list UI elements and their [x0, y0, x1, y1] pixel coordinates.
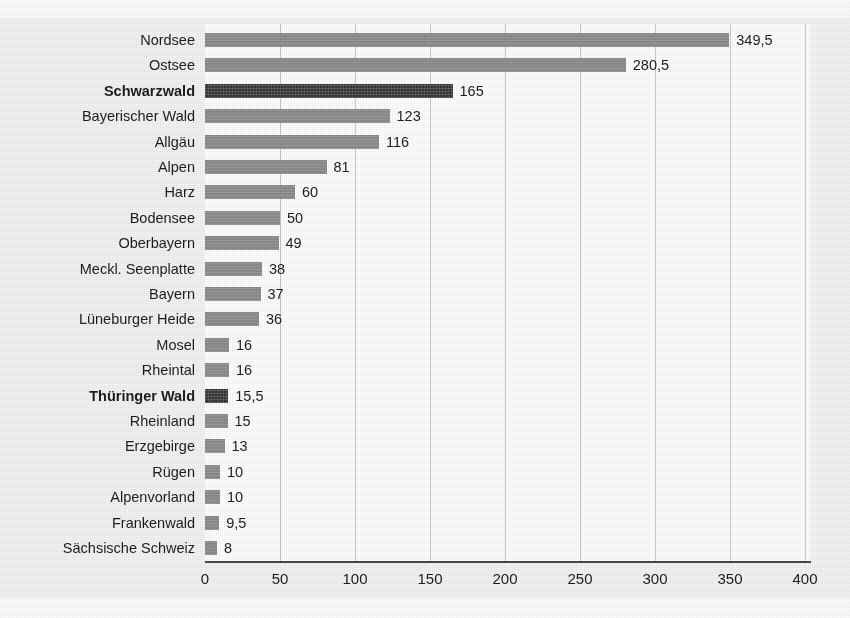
bar-row: Thüringer Wald15,5	[0, 384, 850, 408]
bar-row: Schwarzwald165	[0, 79, 850, 103]
category-label: Meckl. Seenplatte	[0, 257, 195, 281]
bar-row: Sächsische Schweiz8	[0, 536, 850, 560]
value-label: 349,5	[736, 28, 772, 52]
bar	[205, 58, 626, 72]
category-label: Ostsee	[0, 53, 195, 77]
x-tick-label-200: 200	[470, 566, 540, 592]
category-label: Harz	[0, 180, 195, 204]
x-tick-label-250: 250	[545, 566, 615, 592]
bar-row: Frankenwald9,5	[0, 511, 850, 535]
category-label: Nordsee	[0, 28, 195, 52]
value-label: 37	[268, 282, 284, 306]
x-tick-label-350: 350	[695, 566, 765, 592]
bar	[205, 439, 225, 453]
category-label: Frankenwald	[0, 511, 195, 535]
bar	[205, 185, 295, 199]
category-label: Thüringer Wald	[0, 384, 195, 408]
category-label: Bayerischer Wald	[0, 104, 195, 128]
category-label: Allgäu	[0, 130, 195, 154]
bar-rows-group: Nordsee349,5Ostsee280,5Schwarzwald165Bay…	[0, 0, 850, 618]
value-label: 10	[227, 485, 243, 509]
bar	[205, 84, 453, 98]
value-label: 81	[334, 155, 350, 179]
bar-row: Alpen81	[0, 155, 850, 179]
x-axis-line	[205, 561, 811, 563]
bar	[205, 135, 379, 149]
bar-row: Erzgebirge13	[0, 434, 850, 458]
bar-row: Rheinland15	[0, 409, 850, 433]
value-label: 50	[287, 206, 303, 230]
value-label: 15	[235, 409, 251, 433]
bar	[205, 312, 259, 326]
category-label: Schwarzwald	[0, 79, 195, 103]
bar	[205, 516, 219, 530]
bar-row: Bodensee50	[0, 206, 850, 230]
bar	[205, 541, 217, 555]
value-label: 16	[236, 358, 252, 382]
bar	[205, 465, 220, 479]
category-label: Erzgebirge	[0, 434, 195, 458]
value-label: 10	[227, 460, 243, 484]
bar-row: Harz60	[0, 180, 850, 204]
value-label: 165	[460, 79, 484, 103]
value-label: 36	[266, 307, 282, 331]
category-label: Lüneburger Heide	[0, 307, 195, 331]
category-label: Sächsische Schweiz	[0, 536, 195, 560]
bar-chart-figure: Nordsee349,5Ostsee280,5Schwarzwald165Bay…	[0, 0, 850, 618]
category-label: Rheintal	[0, 358, 195, 382]
category-label: Bodensee	[0, 206, 195, 230]
bar-row: Nordsee349,5	[0, 28, 850, 52]
value-label: 280,5	[633, 53, 669, 77]
x-tick-label-150: 150	[395, 566, 465, 592]
bar	[205, 109, 390, 123]
value-label: 116	[386, 130, 409, 154]
bar-row: Alpenvorland10	[0, 485, 850, 509]
x-tick-label-0: 0	[170, 566, 240, 592]
bar-row: Allgäu116	[0, 130, 850, 154]
bar	[205, 211, 280, 225]
bar-row: Ostsee280,5	[0, 53, 850, 77]
value-label: 16	[236, 333, 252, 357]
bar-row: Rheintal16	[0, 358, 850, 382]
bar-row: Bayerischer Wald123	[0, 104, 850, 128]
bar-row: Meckl. Seenplatte38	[0, 257, 850, 281]
bar	[205, 389, 228, 403]
category-label: Alpen	[0, 155, 195, 179]
bar-row: Bayern37	[0, 282, 850, 306]
value-label: 49	[286, 231, 302, 255]
bar-row: Lüneburger Heide36	[0, 307, 850, 331]
bar	[205, 236, 279, 250]
x-tick-label-300: 300	[620, 566, 690, 592]
category-label: Bayern	[0, 282, 195, 306]
value-label: 123	[397, 104, 421, 128]
category-label: Mosel	[0, 333, 195, 357]
x-tick-label-50: 50	[245, 566, 315, 592]
value-label: 38	[269, 257, 285, 281]
category-label: Oberbayern	[0, 231, 195, 255]
bar-row: Mosel16	[0, 333, 850, 357]
value-label: 60	[302, 180, 318, 204]
bar	[205, 33, 729, 47]
x-tick-label-400: 400	[770, 566, 840, 592]
category-label: Rügen	[0, 460, 195, 484]
x-tick-label-100: 100	[320, 566, 390, 592]
value-label: 15,5	[235, 384, 263, 408]
bar	[205, 363, 229, 377]
bar	[205, 414, 228, 428]
bar	[205, 287, 261, 301]
value-label: 8	[224, 536, 232, 560]
bar	[205, 338, 229, 352]
bar-row: Oberbayern49	[0, 231, 850, 255]
bar	[205, 490, 220, 504]
bar-row: Rügen10	[0, 460, 850, 484]
value-label: 9,5	[226, 511, 246, 535]
x-axis-tick-labels: 050100150200250300350400	[0, 566, 850, 594]
bar	[205, 262, 262, 276]
value-label: 13	[232, 434, 248, 458]
category-label: Alpenvorland	[0, 485, 195, 509]
category-label: Rheinland	[0, 409, 195, 433]
bar	[205, 160, 327, 174]
